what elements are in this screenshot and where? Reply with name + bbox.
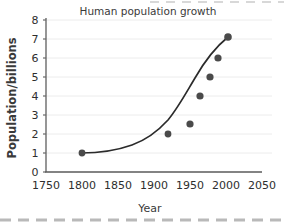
y-tick-label: 2 bbox=[32, 128, 39, 141]
x-tick-label: 1900 bbox=[140, 179, 168, 192]
x-tick-label: 2050 bbox=[248, 179, 276, 192]
data-point bbox=[165, 131, 172, 138]
y-tick-label: 1 bbox=[32, 147, 39, 160]
y-tick-label: 5 bbox=[32, 71, 39, 84]
data-point bbox=[79, 150, 86, 157]
x-tick-label: 1850 bbox=[104, 179, 132, 192]
x-tick-label: 1750 bbox=[32, 179, 60, 192]
y-tick-label: 7 bbox=[32, 33, 39, 46]
x-tick-label: 1800 bbox=[68, 179, 96, 192]
x-tick-label: 2000 bbox=[212, 179, 240, 192]
y-tick-label: 3 bbox=[32, 109, 39, 122]
data-point bbox=[214, 54, 221, 61]
y-axis-title: Population/billions bbox=[5, 37, 19, 158]
data-point bbox=[224, 33, 232, 41]
data-point bbox=[206, 73, 213, 80]
population-growth-chart: Human population growth 8 7 6 5 4 3 2 1 … bbox=[0, 0, 284, 223]
y-tick-label: 0 bbox=[32, 166, 39, 179]
chart-title: Human population growth bbox=[80, 5, 217, 17]
y-tick-label: 4 bbox=[32, 90, 39, 103]
y-tick-label: 8 bbox=[32, 14, 39, 27]
x-axis-title: Year bbox=[137, 202, 162, 215]
chart-figure: Human population growth 8 7 6 5 4 3 2 1 … bbox=[0, 0, 284, 223]
data-point bbox=[196, 92, 203, 99]
data-point bbox=[186, 120, 193, 127]
y-tick-label: 6 bbox=[32, 52, 39, 65]
x-tick-label: 1950 bbox=[176, 179, 204, 192]
